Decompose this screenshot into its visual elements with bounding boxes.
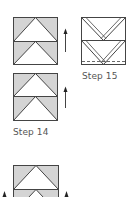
step15-label: Step 15 (82, 72, 118, 81)
arrow-up-icon (64, 29, 68, 53)
arrow-up-icon (64, 87, 68, 109)
step14-label: Step 14 (13, 128, 49, 137)
arrow-up-icon (65, 191, 69, 197)
quilt-steps-diagram (0, 0, 129, 197)
arrow-up-icon (3, 191, 7, 197)
step15-block (82, 18, 126, 65)
step14-block-upper (14, 18, 58, 65)
step16-block (14, 166, 59, 198)
step14-block-lower (14, 74, 58, 121)
